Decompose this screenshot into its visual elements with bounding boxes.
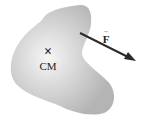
cm-cross-icon: × bbox=[44, 44, 52, 59]
force-arrowhead-icon bbox=[124, 52, 136, 61]
rigid-body-blob bbox=[11, 5, 114, 115]
physics-diagram: × CM → F bbox=[0, 0, 144, 122]
force-label: F bbox=[103, 33, 110, 45]
cm-label: CM bbox=[39, 60, 56, 72]
